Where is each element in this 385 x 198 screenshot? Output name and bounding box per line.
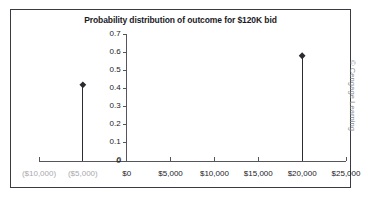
chart-canvas [11, 10, 350, 187]
y-tick-label: 0.7 [93, 29, 121, 38]
origin-label: 0 [117, 155, 121, 164]
y-tick-label: 0.4 [93, 83, 121, 92]
y-tick-label: 0.1 [93, 137, 121, 146]
axes-group [39, 34, 346, 161]
y-tick-label: 0.6 [93, 47, 121, 56]
data-point-marker [79, 81, 86, 88]
plot-area: Probability distribution of outcome for … [11, 10, 350, 187]
data-point-marker [299, 52, 306, 59]
x-tick-label: $25,000 [316, 169, 376, 178]
y-tick-label: 0.2 [93, 119, 121, 128]
copyright-notice: © Cengage Learning [348, 60, 357, 131]
chart-frame: Probability distribution of outcome for … [10, 9, 351, 188]
y-tick-label: 0.5 [93, 65, 121, 74]
y-tick-label: 0.3 [93, 101, 121, 110]
figure-container: Probability distribution of outcome for … [0, 0, 385, 198]
